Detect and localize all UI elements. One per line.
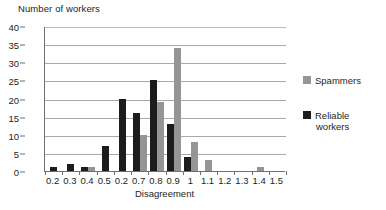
bar [205,160,212,171]
bar [50,167,57,171]
x-tick-label: 1.3 [235,175,248,186]
y-tick-label: 20 [8,95,19,104]
y-tick-label: 0 [14,168,19,177]
bar [133,113,140,171]
x-tick-label: 1.4 [253,175,266,186]
x-axis-title: Disagreement [44,188,285,199]
legend-label-line2: workers [315,121,349,132]
bar [167,124,174,171]
bar [157,102,164,171]
bar [257,167,264,171]
x-tick-label: 0.4 [80,175,93,186]
y-tick-mark [20,135,25,136]
x-tick-label: 0.9 [166,175,179,186]
y-tick-mark [20,45,25,46]
bar [119,99,126,172]
y-axis-tick-labels: 0510152025303540 [0,0,44,172]
x-tick-label: 0.2 [115,175,128,186]
y-tick-label: 25 [8,77,19,86]
x-tick-label: 0.7 [132,175,145,186]
bar-chart-figure: Number of workers 0510152025303540 0.20.… [0,0,386,210]
bar [184,157,191,172]
x-tick-label: 1.1 [201,175,214,186]
y-tick-label: 5 [14,149,19,158]
bar [81,167,88,171]
y-tick-label: 30 [8,59,19,68]
x-tick-label: 1 [188,175,193,186]
y-tick-label: 15 [8,113,19,122]
legend: Spammers Reliableworkers [303,0,386,210]
bar [140,135,147,171]
y-tick-mark [20,117,25,118]
plot-area [44,27,285,172]
legend-swatch-reliable-workers-icon [303,111,311,119]
x-tick-label: 0.5 [98,175,111,186]
bar [67,164,74,171]
bar [88,167,95,171]
legend-swatch-spammers-icon [303,76,311,84]
y-tick-mark [20,27,25,28]
x-tick-label: 1.5 [270,175,283,186]
legend-label-spammers: Spammers [315,75,361,86]
y-tick-label: 40 [8,23,19,32]
x-tick-mark [286,171,287,175]
y-tick-mark [20,99,25,100]
legend-entry-spammers: Spammers [303,75,361,86]
x-tick-label: 0.2 [46,175,59,186]
x-axis-tick-labels: 0.20.30.40.50.20.70.80.911.11.21.31.41.5 [44,175,285,188]
y-tick-mark [20,63,25,64]
y-tick-mark [20,153,25,154]
y-tick-mark [20,172,25,173]
bar [174,48,181,171]
x-tick-label: 0.3 [63,175,76,186]
x-tick-label: 1.2 [218,175,231,186]
bar [150,80,157,171]
x-tick-label: 0.8 [149,175,162,186]
y-tick-label: 10 [8,131,19,140]
bar [102,146,109,171]
bar [191,142,198,171]
legend-label-line1: Reliable [315,110,349,121]
y-tick-mark [20,81,25,82]
bar-group [45,27,285,171]
y-tick-label: 35 [8,41,19,50]
legend-label-reliable-workers: Reliableworkers [315,110,349,132]
legend-entry-reliable-workers: Reliableworkers [303,110,349,132]
